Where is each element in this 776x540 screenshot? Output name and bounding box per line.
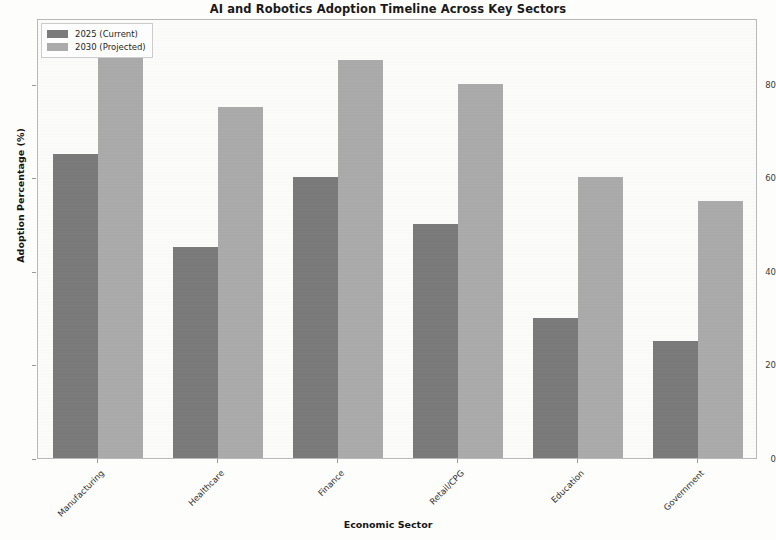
legend-label: 2030 (Projected)	[75, 42, 146, 52]
bars-layer	[38, 20, 756, 458]
bar-government-2030	[698, 201, 743, 458]
x-tick-mark	[697, 459, 698, 463]
x-tick-mark	[457, 459, 458, 463]
bar-manufacturing-2030	[98, 37, 143, 458]
bar-government-2025	[653, 341, 698, 458]
y-axis-label: Adoption Percentage (%)	[15, 86, 26, 306]
y-tick-mark	[32, 85, 36, 86]
x-tick-mark	[337, 459, 338, 463]
legend-swatch-icon	[47, 43, 68, 51]
bar-healthcare-2030	[218, 107, 263, 458]
y-tick-mark	[32, 365, 36, 366]
chart-legend: 2025 (Current)2030 (Projected)	[41, 23, 153, 58]
plot-area	[37, 19, 757, 459]
y-tick-mark	[32, 272, 36, 273]
x-tick-mark	[577, 459, 578, 463]
legend-swatch-icon	[47, 30, 68, 38]
bar-retail-cpg-2025	[413, 224, 458, 458]
legend-label: 2025 (Current)	[75, 29, 138, 39]
x-tick-mark	[97, 459, 98, 463]
chart-title: AI and Robotics Adoption Timeline Across…	[0, 2, 776, 16]
legend-item-2030: 2030 (Projected)	[47, 40, 146, 53]
bar-manufacturing-2025	[53, 154, 98, 458]
y-tick-mark	[32, 178, 36, 179]
bar-healthcare-2025	[173, 247, 218, 458]
x-axis-label: Economic Sector	[0, 519, 776, 530]
x-tick-mark	[217, 459, 218, 463]
bar-education-2025	[533, 318, 578, 458]
bar-finance-2025	[293, 177, 338, 458]
bar-retail-cpg-2030	[458, 84, 503, 458]
y-tick-mark	[32, 459, 36, 460]
bar-education-2030	[578, 177, 623, 458]
chart-figure: AI and Robotics Adoption Timeline Across…	[0, 0, 776, 540]
bar-finance-2030	[338, 60, 383, 458]
legend-item-2025: 2025 (Current)	[47, 27, 146, 40]
